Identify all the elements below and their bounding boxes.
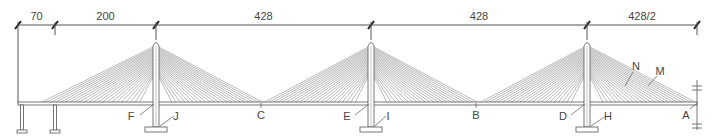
stay-cable	[157, 53, 242, 104]
point-label-a: A	[682, 109, 690, 121]
stay-cable	[40, 46, 155, 103]
stay-cable	[157, 66, 199, 104]
pier-footing	[17, 130, 27, 133]
point-label-j: J	[173, 110, 179, 122]
approach-pier	[21, 105, 24, 131]
bridge-svg: 70200428428428/2 ABCDEFHIJNM	[0, 0, 719, 140]
stay-cable	[372, 53, 457, 104]
stay-cable	[479, 46, 586, 103]
stay-cable	[157, 46, 264, 103]
stay-cable	[544, 66, 586, 104]
point-label-d: D	[559, 110, 567, 122]
stay-cable	[59, 51, 155, 103]
point-label-e: E	[343, 110, 350, 122]
dimension-label: 70	[30, 10, 42, 22]
dimension-label: 428	[254, 10, 272, 22]
stay-cable	[49, 49, 155, 103]
point-label-m: M	[655, 65, 664, 77]
stay-cable	[501, 53, 586, 104]
point-label-c: C	[257, 109, 265, 121]
towers	[145, 43, 598, 133]
bridge-elevation-diagram: 70200428428428/2 ABCDEFHIJNM	[0, 0, 719, 140]
stay-cable	[588, 46, 697, 103]
point-label-n: N	[632, 60, 640, 72]
pier-footing	[50, 130, 60, 133]
leader-line	[375, 116, 386, 126]
tower-foundation	[145, 127, 167, 132]
point-label-i: I	[386, 110, 389, 122]
dimension-label: 200	[96, 10, 114, 22]
stay-cable	[372, 46, 479, 103]
leader-line	[160, 116, 174, 126]
leader-line	[571, 104, 585, 115]
point-label-f: F	[128, 110, 135, 122]
dimension-label: 428/2	[628, 10, 656, 22]
point-label-h: H	[604, 110, 612, 122]
stay-cable	[285, 53, 370, 104]
tower-foundation	[360, 127, 382, 132]
leader-line	[140, 104, 154, 115]
dimension-label: 428	[470, 10, 488, 22]
leader-line	[355, 104, 369, 115]
stay-cable	[588, 66, 630, 104]
point-label-b: B	[472, 109, 479, 121]
deck-girder	[18, 102, 697, 105]
stay-cable	[64, 53, 155, 104]
stay-cable	[73, 55, 155, 103]
tower-foundation	[576, 127, 598, 132]
stay-cable	[135, 72, 155, 103]
approach-pier	[54, 105, 57, 131]
stay-cable	[372, 66, 414, 104]
stay-cable	[328, 66, 370, 104]
stay-cable	[263, 46, 370, 103]
leader-line	[648, 76, 657, 86]
point-labels: ABCDEFHIJNM	[128, 60, 696, 126]
